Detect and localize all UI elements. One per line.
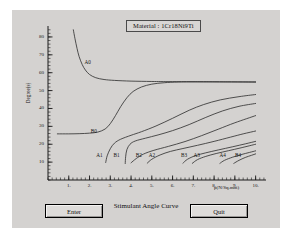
curve-label-A4: A4: [219, 152, 225, 158]
x-tick-label: 5.: [146, 183, 158, 188]
curve-label-A1: A1: [96, 152, 102, 158]
chart-panel: Material : 1Cr18Ni9Ti Degree(s) p(N/Sq.m…: [18, 14, 274, 196]
curves-layer: [57, 30, 255, 164]
y-tick-label: 30: [32, 123, 44, 128]
curve-label-B1: B1: [114, 152, 120, 158]
curve-label-B3: B3: [181, 152, 187, 158]
y-tick-label: 80: [32, 34, 44, 39]
y-tick-label: 10: [32, 159, 44, 164]
y-tick-label: 70: [32, 52, 44, 57]
x-tick-label: 3.: [104, 183, 116, 188]
curve-label-A0: A0: [84, 59, 90, 65]
x-tick-label: 4.: [125, 183, 137, 188]
x-tick-label: 9.: [229, 183, 241, 188]
stimulant-angle-plot: [18, 14, 274, 196]
x-tick-label: 7.: [187, 183, 199, 188]
x-tick-label: 6.: [167, 183, 179, 188]
application-window: Material : 1Cr18Ni9Ti Degree(s) p(N/Sq.m…: [12, 10, 280, 228]
curve-label-B4: B4: [235, 152, 241, 158]
y-tick-label: 50: [32, 88, 44, 93]
x-tick-label: 10.: [250, 183, 262, 188]
y-axis-label: Degree(s): [25, 70, 31, 116]
curve-A0: [73, 30, 255, 82]
quit-button[interactable]: Quit: [190, 204, 248, 218]
x-tick-label: 8.: [208, 183, 220, 188]
chart-title-box: Material : 1Cr18Ni9Ti: [126, 20, 201, 32]
curve-label-B0: B0: [91, 128, 97, 134]
y-tick-label: 40: [32, 105, 44, 110]
x-tick-label: 2.: [84, 183, 96, 188]
y-tick-label: 20: [32, 141, 44, 146]
enter-button[interactable]: Enter: [45, 204, 103, 218]
y-tick-label: 60: [32, 70, 44, 75]
x-tick-label: 1.: [63, 183, 75, 188]
curve-label-B2: B2: [136, 152, 142, 158]
curve-label-A3: A3: [193, 152, 199, 158]
chart-title-text: Material : 1Cr18Ni9Ti: [133, 22, 194, 29]
button-bar: Enter Quit: [12, 202, 280, 226]
curve-label-A2: A2: [149, 152, 155, 158]
